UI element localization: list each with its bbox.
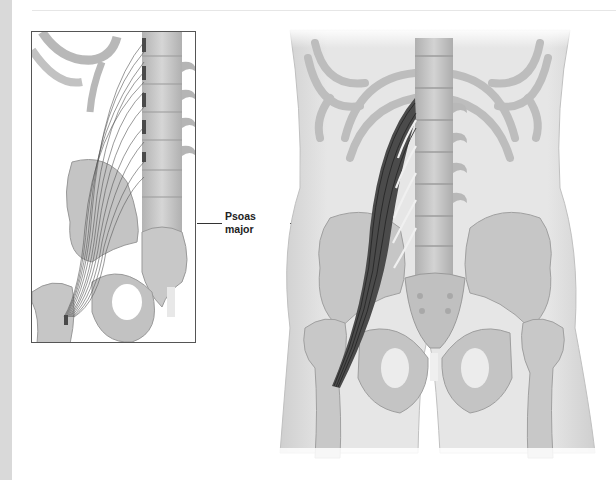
label-line-1: Psoas [225, 210, 256, 223]
main-anterior-view-panel [270, 28, 616, 480]
page-edge-strip [0, 0, 12, 480]
leader-line-left [197, 223, 222, 224]
psoas-major-label: Psoas major [225, 210, 256, 236]
inset-detail-panel [31, 31, 196, 343]
label-line-2: major [225, 223, 256, 236]
main-illustration [270, 28, 616, 480]
top-rule [32, 10, 616, 11]
inset-illustration [32, 32, 196, 343]
